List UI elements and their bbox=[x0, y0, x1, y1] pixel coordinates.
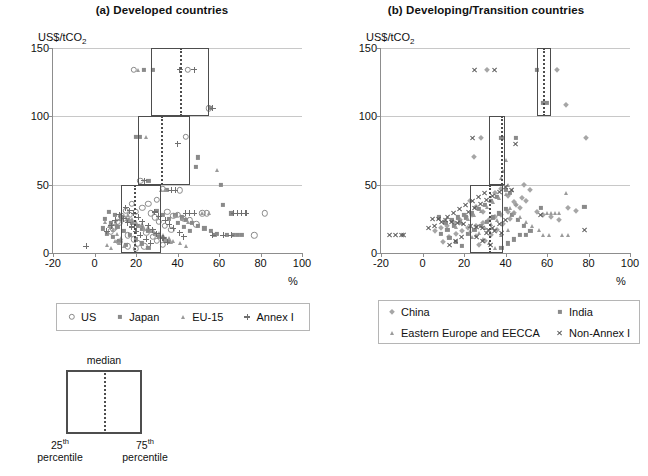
data-point-square bbox=[437, 215, 441, 219]
data-point-square bbox=[454, 240, 458, 244]
data-point-triangle bbox=[549, 211, 553, 215]
median-line-50-100 bbox=[161, 116, 163, 184]
legend-developing-countries: ChinaIndiaEastern Europe and EECCANon-An… bbox=[378, 300, 640, 344]
data-point-triangle bbox=[167, 236, 171, 240]
y-tickmark-150 bbox=[377, 48, 381, 49]
data-point-triangle bbox=[161, 233, 165, 237]
data-point-triangle bbox=[514, 202, 518, 206]
legend-item-us[interactable]: US bbox=[66, 311, 96, 323]
data-point-cross bbox=[449, 219, 455, 225]
data-point-square bbox=[209, 229, 213, 233]
data-point-plus bbox=[243, 210, 249, 216]
triangle-marker bbox=[390, 331, 394, 335]
panel-a-title: (a) Developed countries bbox=[0, 4, 324, 16]
legend-item-india[interactable]: India bbox=[554, 306, 639, 318]
data-point-square bbox=[229, 211, 233, 215]
data-point-triangle bbox=[454, 225, 458, 229]
data-point-cross bbox=[442, 217, 448, 223]
data-point-diamond bbox=[563, 102, 569, 108]
median-line-100-150 bbox=[180, 48, 182, 116]
x-tick-label-0: 0 bbox=[91, 257, 97, 269]
data-point-plus bbox=[83, 243, 89, 249]
legend-item-japan[interactable]: Japan bbox=[114, 311, 159, 323]
data-point-cross bbox=[492, 67, 498, 73]
data-point-cross bbox=[453, 238, 459, 244]
data-point-circle bbox=[110, 225, 116, 231]
percentile-box-0-50 bbox=[470, 185, 503, 253]
data-point-triangle bbox=[553, 211, 557, 215]
data-point-triangle bbox=[200, 211, 204, 215]
data-point-square bbox=[508, 191, 512, 195]
legend-item-china[interactable]: China bbox=[386, 306, 554, 318]
data-point-cross bbox=[469, 135, 475, 141]
data-point-triangle bbox=[506, 228, 510, 232]
data-point-square bbox=[518, 233, 522, 237]
data-point-triangle bbox=[460, 221, 464, 225]
data-point-square bbox=[194, 165, 198, 169]
data-point-diamond bbox=[507, 216, 513, 222]
data-point-triangle bbox=[508, 206, 512, 210]
data-point-circle bbox=[203, 210, 209, 216]
data-point-diamond bbox=[444, 223, 450, 229]
key-p25-label: 25th percentile bbox=[22, 438, 98, 463]
x-tick-label-100: 100 bbox=[621, 257, 639, 269]
triangle-marker bbox=[181, 315, 185, 319]
data-point-diamond bbox=[511, 199, 517, 205]
gridline-y-50 bbox=[53, 185, 302, 186]
data-point-cross bbox=[459, 234, 465, 240]
data-point-square bbox=[165, 188, 169, 192]
data-point-square bbox=[184, 218, 188, 222]
data-point-triangle bbox=[530, 224, 534, 228]
square-icon bbox=[554, 306, 566, 318]
data-point-square bbox=[101, 226, 105, 230]
data-point-triangle bbox=[103, 220, 107, 224]
data-point-plus bbox=[187, 210, 193, 216]
legend-item-eastern-europe-and-eecca[interactable]: Eastern Europe and EECCA bbox=[386, 327, 554, 339]
data-point-diamond bbox=[583, 135, 589, 141]
panel-a-x-unit-label: % bbox=[288, 275, 298, 287]
data-point-plus bbox=[166, 221, 172, 227]
data-point-square bbox=[161, 213, 165, 217]
diamond-marker bbox=[389, 309, 395, 315]
y-tickmark-50 bbox=[377, 185, 381, 186]
legend-item-annex-i[interactable]: Annex I bbox=[241, 311, 293, 323]
legend-item-label: India bbox=[569, 306, 593, 318]
x-tick-label-80: 80 bbox=[582, 257, 594, 269]
data-point-circle bbox=[181, 216, 187, 222]
data-point-circle bbox=[162, 222, 168, 228]
y-tickmark-100 bbox=[377, 116, 381, 117]
data-point-triangle bbox=[557, 211, 561, 215]
data-point-cross bbox=[461, 221, 467, 227]
data-point-triangle bbox=[518, 215, 522, 219]
data-point-square bbox=[512, 237, 516, 241]
data-point-square bbox=[522, 224, 526, 228]
data-point-square bbox=[109, 221, 113, 225]
data-point-square bbox=[231, 233, 235, 237]
data-point-triangle bbox=[510, 188, 514, 192]
y-tick-label-100: 100 bbox=[31, 110, 49, 122]
key-median-line bbox=[104, 370, 106, 434]
legend-item-non-annex-i[interactable]: Non-Annex I bbox=[554, 327, 639, 339]
data-point-square bbox=[213, 233, 217, 237]
data-point-triangle bbox=[504, 192, 508, 196]
data-point-circle bbox=[112, 224, 118, 230]
data-point-triangle bbox=[180, 217, 184, 221]
data-point-square bbox=[445, 228, 449, 232]
data-point-plus bbox=[170, 225, 176, 231]
legend-item-eu-15[interactable]: EU-15 bbox=[177, 311, 223, 323]
data-point-square bbox=[107, 210, 111, 214]
data-point-plus bbox=[183, 210, 189, 216]
data-point-cross bbox=[509, 187, 515, 193]
data-point-square bbox=[113, 213, 117, 217]
data-point-diamond bbox=[511, 210, 517, 216]
y-tickmark-50 bbox=[49, 185, 53, 186]
data-point-square bbox=[167, 240, 171, 244]
y-tickmark-150 bbox=[49, 48, 53, 49]
data-point-square bbox=[221, 203, 225, 207]
data-point-square bbox=[209, 106, 213, 110]
data-point-triangle bbox=[186, 220, 190, 224]
data-point-square bbox=[464, 215, 468, 219]
plus-marker bbox=[244, 314, 250, 320]
legend-item-label: EU-15 bbox=[192, 311, 223, 323]
data-point-diamond bbox=[438, 225, 444, 231]
